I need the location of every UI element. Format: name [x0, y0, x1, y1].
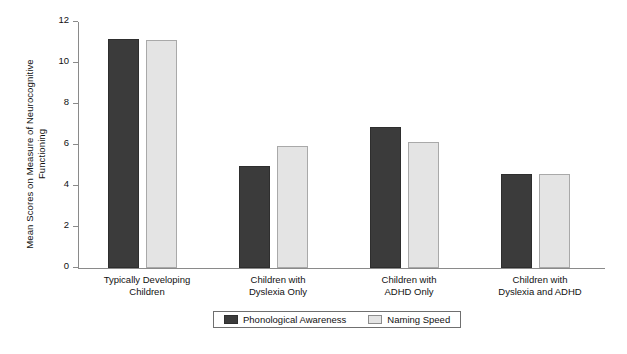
bar	[408, 142, 439, 268]
x-axis-category-label-line: Children	[72, 286, 222, 298]
bar-group	[108, 22, 178, 268]
y-axis-tick-label: 4	[64, 178, 69, 189]
y-axis-tick-label: 2	[64, 219, 69, 230]
y-axis-tick-label: 8	[64, 96, 69, 107]
bar	[539, 174, 570, 268]
y-axis-tick-label: 0	[64, 260, 69, 271]
bar	[370, 127, 401, 268]
chart-legend: Phonological Awareness Naming Speed	[213, 311, 461, 328]
plot-area: 024681012	[78, 22, 605, 268]
x-axis-category-label-line: Children with	[334, 274, 484, 286]
y-axis-tick-label: 6	[64, 137, 69, 148]
bar	[277, 146, 308, 268]
bar	[108, 39, 139, 268]
legend-swatch-icon-dark	[224, 315, 238, 324]
x-axis-category-label-line: ADHD Only	[334, 286, 484, 298]
y-axis-tick: 8	[73, 103, 78, 104]
y-axis-tick: 0	[73, 267, 78, 268]
y-axis-title-line-2: Functioning	[36, 34, 48, 274]
bar	[239, 166, 270, 269]
legend-item-phonological-awareness: Phonological Awareness	[224, 314, 346, 325]
y-axis-title: Mean Scores on Measure of Neurocognitive…	[24, 34, 48, 274]
bar-group	[370, 22, 440, 268]
legend-item-naming-speed: Naming Speed	[368, 314, 450, 325]
y-axis-tick: 2	[73, 226, 78, 227]
bar-chart: Mean Scores on Measure of Neurocognitive…	[0, 0, 627, 354]
y-axis-tick-label: 12	[58, 14, 69, 25]
x-axis-line	[78, 268, 605, 269]
bar	[501, 174, 532, 268]
x-axis-category-label: Children withADHD Only	[334, 274, 484, 298]
x-axis-category-label-line: Children with	[203, 274, 353, 286]
bar	[146, 40, 177, 268]
x-axis-category-label: Children withDyslexia and ADHD	[465, 274, 615, 298]
x-axis-category-label: Typically DevelopingChildren	[72, 274, 222, 298]
bar-group	[501, 22, 571, 268]
x-axis-category-label-line: Typically Developing	[72, 274, 222, 286]
y-axis-title-line-1: Mean Scores on Measure of Neurocognitive	[24, 34, 36, 274]
y-axis-line	[78, 22, 79, 269]
bar-group	[239, 22, 309, 268]
y-axis-tick: 10	[73, 62, 78, 63]
legend-label-phonological-awareness: Phonological Awareness	[243, 314, 346, 325]
y-axis-tick: 6	[73, 144, 78, 145]
x-axis-category-label-line: Dyslexia and ADHD	[465, 286, 615, 298]
y-axis-tick-label: 10	[58, 55, 69, 66]
y-axis-tick: 12	[73, 21, 78, 22]
x-axis-category-label: Children withDyslexia Only	[203, 274, 353, 298]
y-axis-tick: 4	[73, 185, 78, 186]
legend-swatch-icon-light	[368, 315, 382, 324]
legend-label-naming-speed: Naming Speed	[387, 314, 450, 325]
x-axis-category-label-line: Children with	[465, 274, 615, 286]
x-axis-category-label-line: Dyslexia Only	[203, 286, 353, 298]
